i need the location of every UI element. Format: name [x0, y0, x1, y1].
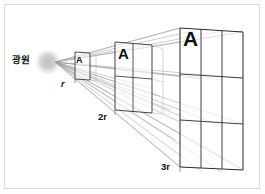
area-label-panel-2r: A [118, 46, 129, 61]
distance-label-2r: 2r [98, 112, 107, 122]
area-label-panel-3r: A [183, 28, 198, 49]
light-ray [55, 62, 170, 110]
panel-2r-depth [152, 45, 163, 114]
area-label-panel-r: A [76, 56, 83, 65]
distance-label-r: r [61, 80, 65, 89]
diagram-graphics [0, 0, 265, 194]
diagram-canvas: 광원 r 2r 3r A A A [0, 0, 265, 194]
distance-label-3r: 3r [161, 162, 170, 172]
light-source-label: 광원 [12, 55, 30, 65]
